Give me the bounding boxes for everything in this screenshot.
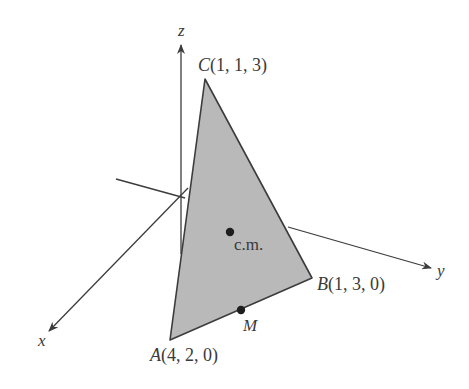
y-axis-label: y [435, 261, 445, 280]
triangle-abc [170, 79, 312, 340]
vertex-c-coords: (1, 1, 3) [210, 55, 267, 76]
vertex-a-coords: (4, 2, 0) [161, 345, 218, 366]
center-of-mass-label: c.m. [234, 235, 263, 254]
x-axis-label: x [37, 331, 46, 350]
midpoint-m-label: M [242, 316, 258, 335]
vertex-a-label: A(4, 2, 0) [149, 345, 218, 366]
triangle-diagram: z x y C(1, 1, 3) B(1, 3, 0) A(4, 2, 0) c… [0, 0, 469, 389]
vertex-c-label: C(1, 1, 3) [198, 55, 267, 76]
vertex-b-coords: (1, 3, 0) [328, 274, 385, 295]
y-axis-negative [116, 179, 185, 198]
center-of-mass-point [226, 228, 234, 236]
z-axis-label: z [177, 21, 185, 40]
midpoint-m-point [237, 306, 245, 314]
vertex-b-name: B [317, 274, 328, 294]
y-axis [288, 227, 431, 268]
vertex-b-label: B(1, 3, 0) [317, 274, 385, 295]
x-axis [49, 188, 188, 331]
